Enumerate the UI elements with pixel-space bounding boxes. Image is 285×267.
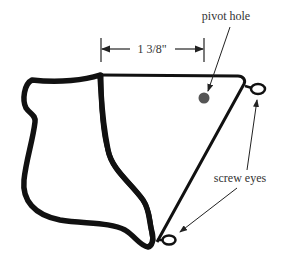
pivot-hole-arrow [208,27,230,91]
dimension-line: 1 3/8" [101,38,204,62]
pivot-hole [199,93,210,104]
screw-eyes-arrow-top [247,100,257,170]
diagram-svg: 1 3/8" pivot hole screw eyes [0,0,285,267]
screw-eyes-label: screw eyes [214,171,267,185]
pivot-hole-label: pivot hole [202,9,250,23]
lever-frame [101,75,245,242]
screw-eyes-arrow-bottom [180,188,237,232]
diagram-canvas: 1 3/8" pivot hole screw eyes [0,0,285,267]
foot-outline [24,75,153,247]
dimension-label: 1 3/8" [137,42,166,56]
screw-eye-top [245,84,265,94]
inner-contour [101,75,153,240]
